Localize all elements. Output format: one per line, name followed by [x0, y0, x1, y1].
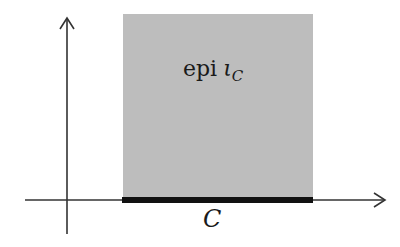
epigraph-diagram: epiιC C: [0, 0, 400, 247]
iota-symbol: ι: [223, 56, 232, 81]
iota-subscript: C: [232, 67, 243, 85]
diagram-graphics: [0, 0, 400, 247]
set-c-label: C: [203, 205, 221, 233]
epi-prefix: epi: [183, 56, 217, 81]
epigraph-region: [123, 14, 313, 200]
epigraph-label: epiιC: [183, 56, 243, 81]
set-c-bar: [122, 197, 313, 203]
